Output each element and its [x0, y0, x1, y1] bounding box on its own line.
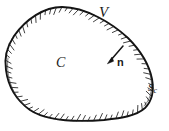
surface-label: Sc: [148, 82, 157, 95]
surface-label-subscript: c: [154, 86, 158, 95]
closed-surface-figure: V C n Sc: [0, 0, 169, 131]
volume-label: V: [99, 5, 108, 20]
figure-canvas: [0, 0, 169, 131]
interior-label: C: [56, 56, 65, 70]
normal-vector-label: n: [117, 57, 124, 68]
